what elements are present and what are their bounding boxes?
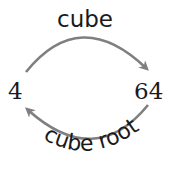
cube-diagram: cube 4 64 cube root <box>0 0 176 170</box>
cube-label: cube <box>57 6 113 32</box>
cube-arrow <box>26 37 146 72</box>
cube-root-text: cube root <box>40 113 143 156</box>
right-value: 64 <box>134 78 163 104</box>
left-value: 4 <box>8 78 23 104</box>
cube-root-label: cube root <box>40 113 143 156</box>
